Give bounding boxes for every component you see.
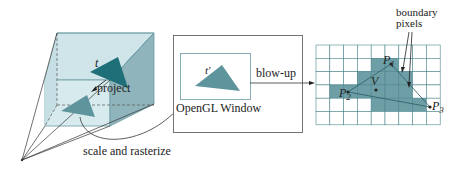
label-project: project [97, 81, 131, 95]
label-opengl-window: OpenGL Window [176, 101, 262, 115]
pixel-cell [316, 45, 330, 58]
pixel-cell [426, 112, 440, 125]
pixel-cell [426, 72, 440, 85]
pixel-cell [413, 45, 427, 58]
pixel-cell [413, 85, 427, 98]
label-t-prime: t' [205, 64, 211, 76]
label-blow-up: blow-up [256, 66, 296, 80]
pixel-cell [385, 85, 399, 98]
pixel-cell [426, 58, 440, 71]
pixel-cell [330, 72, 344, 85]
pixel-cell [357, 112, 371, 125]
pixel-cell [426, 45, 440, 58]
pixel-cell [399, 98, 413, 111]
pixel-cell [357, 58, 371, 71]
pixel-cell [399, 112, 413, 125]
label-scale-rasterize: scale and rasterize [83, 144, 171, 158]
pixel-cell [399, 85, 413, 98]
pixel-cell [344, 112, 358, 125]
pixel-cell [330, 98, 344, 111]
label-pixels: pixels [396, 17, 422, 29]
pixel-cell [344, 58, 358, 71]
pixel-cell [316, 72, 330, 85]
eye-point [21, 159, 23, 161]
pixel-cell [344, 45, 358, 58]
label-p3: P3 [431, 99, 444, 115]
pixel-cell [413, 58, 427, 71]
pixel-cell [371, 112, 385, 125]
pixel-cell [330, 112, 344, 125]
pixel-cell [330, 58, 344, 71]
pixel-cell [426, 85, 440, 98]
pixel-cell [371, 98, 385, 111]
pixel-cell [316, 112, 330, 125]
arrowhead-icon [309, 81, 315, 85]
pixel-cell [357, 98, 371, 111]
rasterization-diagram: t project scale and rasterize t' OpenGL … [0, 0, 464, 175]
view-frustum [45, 33, 154, 126]
pixel-cell [316, 85, 330, 98]
pixel-cell [344, 72, 358, 85]
pixel-cell [385, 112, 399, 125]
pixel-cell [385, 72, 399, 85]
pixel-cell [316, 58, 330, 71]
pixel-cell [330, 45, 344, 58]
pixel-cell [357, 45, 371, 58]
pixel-cell [316, 98, 330, 111]
pixel-cell [413, 72, 427, 85]
pixel-cell [413, 112, 427, 125]
